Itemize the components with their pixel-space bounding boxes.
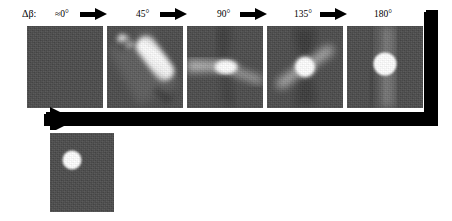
arrow-head xyxy=(335,8,347,20)
step-arrow-3-icon xyxy=(240,8,268,20)
image-panel-4 xyxy=(267,26,343,108)
panel-noise-texture xyxy=(27,26,103,108)
angle-label-panel-2: 45° xyxy=(136,10,149,20)
image-panel-5 xyxy=(347,26,423,108)
row2-caption: 225° (=180° + Full fan angle) xyxy=(66,115,179,125)
step-arrow-1-icon xyxy=(80,8,108,20)
image-panel-6 xyxy=(50,133,114,212)
step-arrow-4-icon xyxy=(320,8,348,20)
arrow-head xyxy=(255,8,267,20)
panel-3-feature xyxy=(187,26,263,108)
panel-4-feature xyxy=(267,26,343,108)
angle-label-panel-1: ≈0° xyxy=(55,10,69,20)
angle-label-panel-3: 90° xyxy=(217,10,230,20)
step-arrow-2-icon xyxy=(160,8,188,20)
panel-2-feature xyxy=(107,26,183,108)
image-panel-3 xyxy=(187,26,263,108)
image-panel-1 xyxy=(27,26,103,108)
arrow-head xyxy=(95,8,107,20)
panel-5-feature xyxy=(347,26,423,108)
figure-panel-sequence: Δβ: ≈0° 45° 90° 135° 180° xyxy=(0,0,452,221)
parameter-label-delta-beta: Δβ: xyxy=(22,9,36,19)
panel-6-feature xyxy=(50,133,114,212)
arrow-head xyxy=(175,8,187,20)
image-panel-2 xyxy=(107,26,183,108)
angle-label-panel-5: 180° xyxy=(374,10,392,20)
angle-label-panel-4: 135° xyxy=(294,10,312,20)
